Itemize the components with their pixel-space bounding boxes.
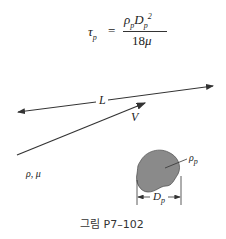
length-arrow-right — [108, 86, 213, 100]
velocity-arrow — [17, 103, 145, 155]
diagram-drawing — [0, 0, 226, 239]
particle-shape — [137, 150, 180, 192]
length-arrow-left — [18, 102, 96, 112]
figure-caption: 그림 P7–102 — [80, 215, 144, 231]
velocity-label: V — [131, 110, 138, 125]
particle-density-label: ρp — [189, 152, 198, 166]
particle-diameter-label: Dp — [153, 190, 165, 205]
fluid-properties-label: ρ, μ — [26, 168, 41, 179]
length-label: L — [99, 93, 106, 108]
